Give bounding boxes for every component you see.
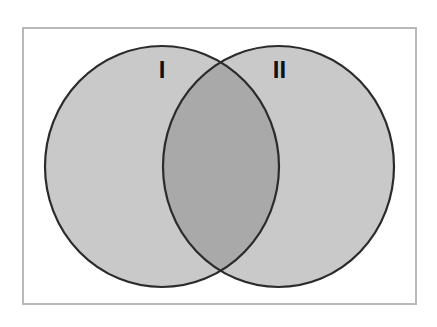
set-i-label: I bbox=[159, 56, 166, 83]
set-ii-label: II bbox=[273, 56, 286, 83]
venn-diagram: I II bbox=[0, 0, 437, 327]
